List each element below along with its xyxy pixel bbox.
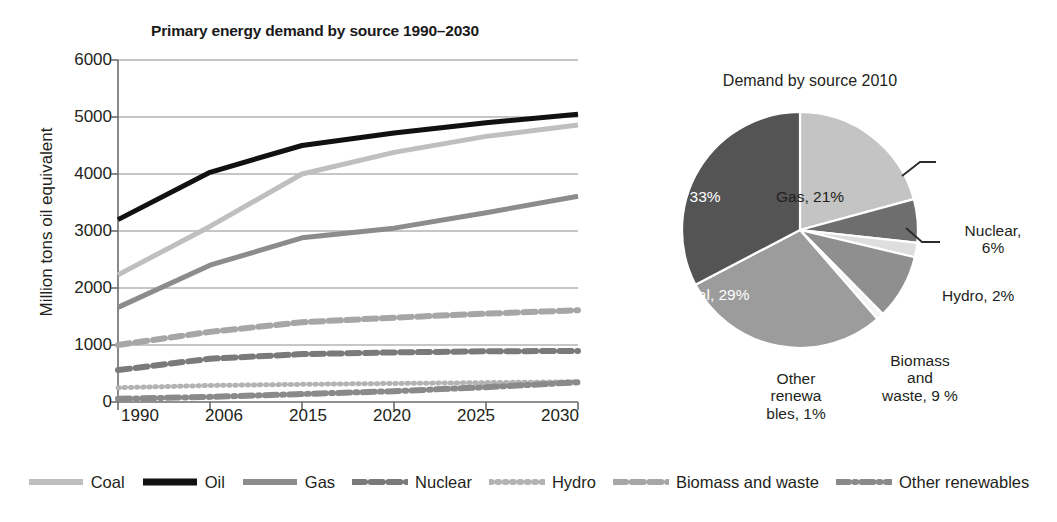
legend-item[interactable]: Oil bbox=[142, 473, 225, 492]
legend-swatch-solid bbox=[142, 475, 198, 489]
pie-slice-label-nuclear: Nuclear, 6% bbox=[938, 222, 1048, 257]
legend-swatch-dashed bbox=[613, 475, 669, 489]
pie-slice-label-oil: Oil, 33% bbox=[662, 188, 721, 205]
pie-slice-label-biomass: Biomass and waste, 9 % bbox=[868, 352, 972, 404]
legend-item[interactable]: Gas bbox=[242, 473, 335, 492]
legend-item[interactable]: Hydro bbox=[489, 473, 596, 492]
pie-slice-label-hydro: Hydro, 2% bbox=[942, 287, 1014, 304]
legend-item-label: Biomass and waste bbox=[676, 473, 819, 492]
legend-item[interactable]: Biomass and waste bbox=[613, 473, 819, 492]
x-tick-label: 2025 bbox=[436, 406, 516, 426]
x-tick-label: 2015 bbox=[268, 406, 348, 426]
legend-item-label: Hydro bbox=[552, 473, 596, 492]
legend-swatch-dotted bbox=[489, 475, 545, 489]
legend-swatch-solid bbox=[242, 475, 298, 489]
x-tick-label: 2030 bbox=[520, 406, 600, 426]
legend-swatch-dashed bbox=[352, 475, 408, 489]
pie-slice-label-coal: Coal, 29% bbox=[678, 286, 750, 303]
chart-legend: CoalOilGasNuclearHydroBiomass and wasteO… bbox=[0, 462, 1057, 502]
legend-swatch-solid bbox=[28, 475, 84, 489]
legend-swatch-dashdot bbox=[836, 475, 892, 489]
legend-item[interactable]: Coal bbox=[28, 473, 125, 492]
legend-item-label: Oil bbox=[205, 473, 225, 492]
legend-item-label: Nuclear bbox=[415, 473, 472, 492]
legend-item-label: Coal bbox=[91, 473, 125, 492]
line-chart: Primary energy demand by source 1990–203… bbox=[0, 0, 620, 450]
pie-chart: Demand by source 2010 Oil, 33% Gas, 21% … bbox=[620, 0, 1057, 450]
line-chart-plot-area bbox=[0, 0, 620, 450]
legend-item[interactable]: Other renewables bbox=[836, 473, 1029, 492]
legend-item-label: Other renewables bbox=[899, 473, 1029, 492]
legend-item-label: Gas bbox=[305, 473, 335, 492]
legend-item[interactable]: Nuclear bbox=[352, 473, 472, 492]
x-tick-label: 1990 bbox=[100, 406, 180, 426]
figure-root: Primary energy demand by source 1990–203… bbox=[0, 0, 1057, 522]
x-tick-label: 2006 bbox=[184, 406, 264, 426]
x-tick-label: 2020 bbox=[352, 406, 432, 426]
pie-slice-label-gas: Gas, 21% bbox=[776, 188, 844, 205]
pie-slice-label-other-renewables: Other renewa bles, 1% bbox=[748, 370, 844, 422]
